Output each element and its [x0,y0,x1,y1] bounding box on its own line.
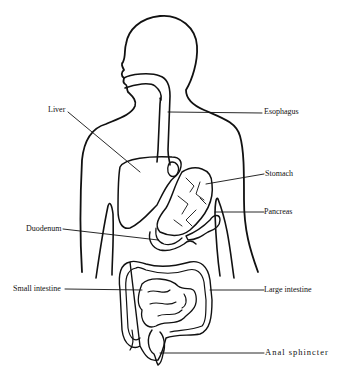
label-large-intestine: Large intestine [264,286,312,294]
leader-lines [63,112,264,353]
label-esophagus: Esophagus [264,108,299,116]
label-small-intestine: Small intestine [13,285,61,293]
duodenum-inner [156,228,182,245]
leader-liver [68,112,140,172]
esophagus-outline [124,74,170,165]
right-arm-inner [215,198,234,278]
large-intestine-outer [119,261,212,360]
leader-esophagus [168,112,262,113]
gallbladder [168,162,179,177]
digestive-system-diagram: Liver Esophagus Stomach Pancreas Duodenu… [0,0,337,372]
label-liver: Liver [48,106,65,114]
body-outline [81,16,259,272]
label-duodenum: Duodenum [26,225,62,233]
label-anal-sphincter: Anal sphincter [265,348,329,357]
leader-duodenum [63,229,158,240]
left-arm-inner [96,204,113,278]
body-outline-drawing [0,0,337,372]
small-intestine-folds [148,290,186,316]
liver-shape [118,157,181,229]
leader-stomach [206,174,264,184]
small-intestine-coils [138,279,196,327]
label-pancreas: Pancreas [264,208,292,216]
leader-small-intestine [65,289,142,290]
label-stomach: Stomach [265,170,293,178]
